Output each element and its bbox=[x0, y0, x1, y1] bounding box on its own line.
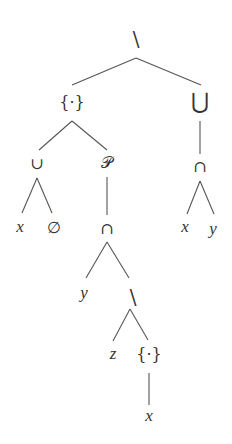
tree-node: ∩ bbox=[193, 157, 206, 176]
tree-edge bbox=[187, 181, 200, 214]
tree-node: y bbox=[78, 283, 88, 302]
tree-nodes: \{·}⋃∪𝒫∩x∅∩xyy\z{·}x bbox=[15, 27, 217, 425]
tree-edge bbox=[72, 121, 107, 150]
tree-edge bbox=[72, 58, 136, 85]
tree-node: x bbox=[15, 217, 24, 236]
expression-tree: \{·}⋃∪𝒫∩x∅∩xyy\z{·}x bbox=[0, 0, 232, 444]
tree-node: ⋃ bbox=[191, 89, 209, 114]
tree-node: 𝒫 bbox=[101, 153, 115, 172]
tree-node: \ bbox=[133, 27, 140, 51]
tree-edge bbox=[200, 181, 214, 214]
tree-node: ∪ bbox=[30, 154, 43, 173]
tree-node: ∩ bbox=[100, 219, 113, 238]
tree-edge bbox=[22, 178, 37, 213]
tree-node: z bbox=[109, 344, 117, 363]
tree-node: ∅ bbox=[47, 218, 61, 237]
tree-node: x bbox=[180, 217, 189, 236]
tree-node: {·} bbox=[59, 93, 84, 112]
tree-node: \ bbox=[130, 285, 137, 309]
tree-edge bbox=[136, 58, 201, 85]
tree-edge bbox=[107, 242, 129, 278]
tree-node: y bbox=[207, 219, 217, 238]
tree-edge bbox=[39, 121, 72, 150]
tree-edge bbox=[113, 309, 130, 341]
tree-edge bbox=[130, 309, 148, 340]
tree-node: x bbox=[144, 406, 153, 425]
tree-node: {·} bbox=[136, 345, 161, 364]
tree-edge bbox=[37, 178, 52, 213]
tree-edge bbox=[86, 242, 107, 278]
